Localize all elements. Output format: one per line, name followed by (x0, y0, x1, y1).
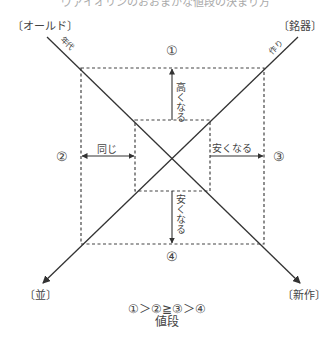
corner-label-old: 〔オールド〕 (12, 21, 78, 33)
region-2: ② (56, 150, 68, 163)
arrow-label-right: 安くなる (212, 143, 252, 154)
arrow-label-up: 高くなる (174, 82, 185, 122)
corner-label-new: 〔新作〕 (282, 290, 326, 302)
region-3: ③ (273, 150, 285, 163)
inner-dashed-rect (135, 120, 210, 191)
region-1: ① (166, 44, 178, 57)
arrow-label-left: 同じ (97, 144, 117, 155)
diagonal-oldtop-new (47, 37, 300, 283)
arrow-label-down: 安くなる (174, 194, 185, 234)
corner-label-ordinary: 〔並〕 (24, 290, 57, 302)
region-4: ④ (166, 250, 178, 263)
price-caption: 値段 (1, 316, 331, 329)
corner-label-masterpiece: 〔銘器〕 (278, 21, 322, 33)
